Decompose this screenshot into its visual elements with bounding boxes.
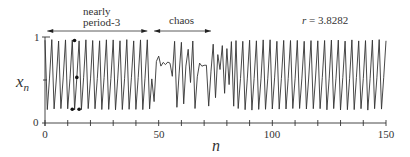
y-axis-label: xn <box>16 73 29 96</box>
y-axis-label-main: x <box>16 72 24 91</box>
ytick-label-0: 0 <box>33 117 39 128</box>
ytick-label-1: 1 <box>34 32 40 43</box>
chart-plot <box>0 0 410 157</box>
xtick-label-150: 150 <box>378 128 395 140</box>
annotation-chaos: chaos <box>169 15 194 26</box>
annotation-arrows <box>47 29 211 33</box>
series-line <box>45 40 386 111</box>
x-axis-label: n <box>212 137 220 155</box>
annotation-r-value: r = 3.8282 <box>302 15 348 26</box>
xtick-label-50: 50 <box>154 128 165 140</box>
axes <box>42 37 386 126</box>
annotation-line2: period-3 <box>83 17 120 28</box>
annotation-nearly-period3: nearly period-3 <box>83 6 120 28</box>
xtick-label-0: 0 <box>42 128 48 140</box>
xtick-label-100: 100 <box>264 128 281 140</box>
y-axis-label-sub: n <box>24 81 30 93</box>
